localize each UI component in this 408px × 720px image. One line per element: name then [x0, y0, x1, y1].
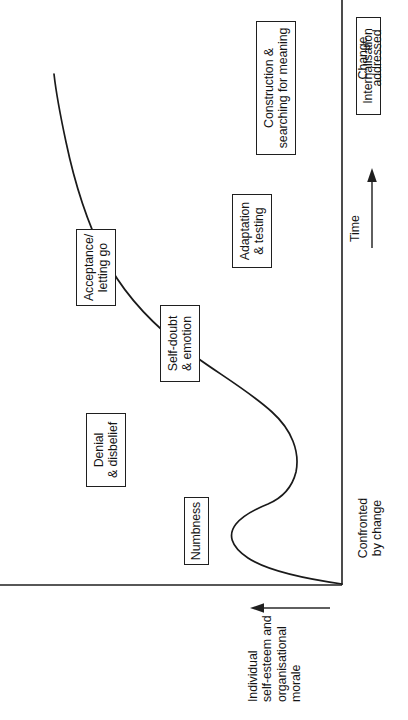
stage-label-line: Construction &	[262, 48, 276, 128]
stage-label-numbness[interactable]: Numbness	[184, 497, 209, 565]
marker-line: Change	[356, 14, 370, 102]
y-axis-label-line: organisational	[275, 615, 289, 702]
stage-label-line: letting go	[96, 243, 110, 292]
stage-label-adaptation[interactable]: Adaptation & testing	[232, 194, 272, 268]
marker-line: addressed	[370, 14, 384, 102]
marker-line: by change	[370, 482, 384, 574]
diagram-canvas: Numbness Denial & disbelief Self-doubt &…	[0, 0, 408, 720]
stage-label-line: Adaptation	[238, 202, 252, 260]
marker-change-addressed: Change addressed	[356, 14, 385, 102]
stage-label-acceptance[interactable]: Acceptance/ letting go	[76, 229, 116, 306]
stage-label-self-doubt[interactable]: Self-doubt & emotion	[160, 305, 200, 382]
stage-label-line: searching for meaning	[276, 28, 290, 149]
x-axis-arrow	[367, 168, 377, 248]
stage-label-construction[interactable]: Construction & searching for meaning	[256, 21, 296, 155]
y-axis-label-line: self-esteem and	[260, 615, 274, 702]
stage-label-denial[interactable]: Denial & disbelief	[86, 413, 126, 487]
stage-label-line: & emotion	[180, 316, 194, 371]
stage-label-line: Self-doubt	[166, 316, 180, 371]
y-axis-arrow	[250, 603, 330, 613]
stage-label-line: Numbness	[189, 502, 203, 560]
change-curve-figure: Numbness Denial & disbelief Self-doubt &…	[0, 0, 408, 720]
stage-label-line: & testing	[252, 207, 266, 254]
marker-confronted-by-change: Confronted by change	[356, 482, 385, 574]
x-axis-label: Time	[348, 215, 362, 242]
stage-label-line: Denial	[92, 433, 106, 468]
marker-line: Confronted	[356, 482, 370, 574]
y-axis-label-line: Individual	[246, 615, 260, 702]
stage-label-line: Acceptance/	[82, 234, 96, 301]
stage-label-line: & disbelief	[106, 422, 120, 478]
x-axis-label-text: Time	[348, 215, 362, 242]
y-axis-label: Individual self-esteem and organisationa…	[246, 615, 304, 702]
change-curve-drawing	[0, 0, 408, 720]
y-axis-label-line: morale	[289, 615, 303, 702]
